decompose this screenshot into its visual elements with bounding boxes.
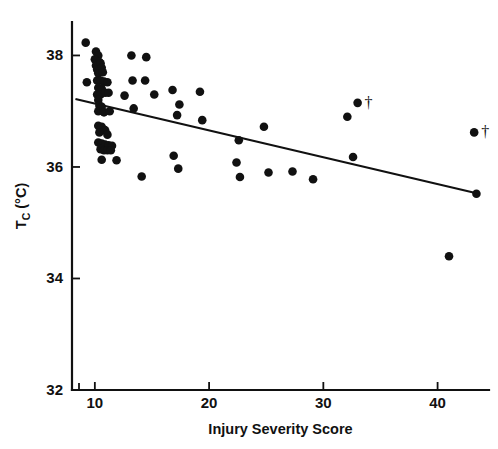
data-point (97, 155, 106, 164)
y-tick-label-34: 34 (46, 269, 63, 286)
data-point (309, 175, 318, 184)
data-point (99, 68, 108, 77)
data-point (95, 128, 104, 137)
y-tick-label-38: 38 (46, 46, 63, 63)
x-tick-label-20: 20 (201, 394, 218, 411)
data-point (175, 100, 184, 109)
chart-canvas: 32343638 10203040 †† Injury Severity Sco… (0, 0, 498, 449)
dagger-symbol: † (481, 123, 489, 140)
y-tick-label-32: 32 (46, 381, 63, 398)
y-axis-title-base: T (13, 220, 29, 229)
data-point (112, 156, 121, 165)
data-point (264, 168, 273, 177)
data-point (128, 76, 137, 85)
data-point (104, 89, 113, 98)
data-point (235, 136, 244, 145)
data-point (470, 128, 479, 137)
data-point (103, 78, 112, 87)
chart-background (0, 0, 498, 449)
data-point (150, 90, 159, 99)
data-point (198, 116, 207, 125)
x-tick-label-30: 30 (315, 394, 332, 411)
data-point (107, 146, 116, 155)
y-tick-label-36: 36 (46, 158, 63, 175)
data-point (173, 111, 182, 120)
data-point (196, 87, 205, 96)
data-point (120, 91, 129, 100)
data-point (129, 104, 138, 113)
data-point (81, 38, 90, 47)
data-point (142, 53, 151, 62)
data-point (232, 158, 241, 167)
data-point (103, 130, 112, 139)
x-tick-label-10: 10 (87, 394, 104, 411)
data-point (141, 76, 150, 85)
data-point (169, 152, 178, 161)
y-axis-title-unit: (°C) (13, 183, 29, 213)
data-point (445, 252, 454, 261)
data-point (105, 107, 114, 116)
data-point (343, 112, 352, 121)
data-point (472, 189, 481, 198)
data-point (137, 172, 146, 181)
data-point (127, 51, 136, 60)
scatter-plot-figure: 32343638 10203040 †† Injury Severity Sco… (0, 0, 498, 449)
data-point (353, 99, 362, 108)
data-point (288, 167, 297, 176)
data-point (168, 86, 177, 95)
data-point (349, 153, 358, 162)
x-tick-label-40: 40 (429, 394, 446, 411)
data-point (260, 123, 269, 132)
data-point (236, 173, 245, 182)
data-point (174, 164, 183, 173)
dagger-symbol: † (365, 94, 373, 111)
x-axis-title: Injury Severity Score (208, 421, 352, 437)
data-point (83, 78, 92, 87)
